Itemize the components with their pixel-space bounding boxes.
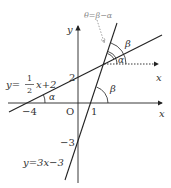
diagram: θ=β−α y x x 2 −4 O 1 −3 β α α β y= 1 2 x… [0, 0, 171, 188]
alpha-label-top: α [118, 55, 124, 65]
y-axis-label: y [66, 24, 73, 35]
annotation-leader [97, 20, 104, 42]
annotation-theta: θ=β−α [84, 11, 113, 20]
alpha-arc-bottom [44, 95, 46, 103]
eq-half-suffix: x+2 [36, 79, 56, 90]
theta-arc-outer [108, 52, 116, 59]
origin-label: O [66, 106, 74, 117]
tick-y-2: 2 [69, 72, 75, 83]
alpha-label-bottom: α [49, 92, 55, 102]
aux-x-axis-label: x [156, 72, 162, 83]
eq-half-denominator: 2 [27, 86, 32, 95]
eq-half-numerator: 1 [27, 74, 32, 83]
beta-label-bottom: β [109, 83, 116, 94]
tick-x-neg4: −4 [22, 106, 37, 117]
beta-label-top: β [124, 38, 131, 49]
tick-x-1: 1 [91, 106, 97, 117]
eq-half-prefix: y= [5, 79, 20, 90]
x-axis-label: x [159, 108, 165, 119]
tick-y-neg3: −3 [60, 137, 75, 148]
line-3x-minus-3 [65, 23, 117, 180]
equation-line-3x: y=3x−3 [22, 157, 64, 168]
alpha-arc-top [116, 58, 117, 64]
beta-arc-bottom [97, 87, 109, 103]
